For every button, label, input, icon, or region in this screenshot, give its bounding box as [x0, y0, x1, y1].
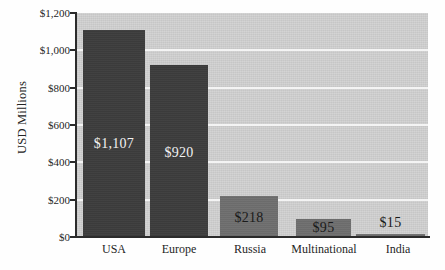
y-tick-label: $1,000: [6, 44, 70, 56]
x-axis-label-usa: USA: [83, 242, 145, 257]
plot-area: [77, 13, 428, 237]
x-axis-line: [75, 236, 430, 238]
y-tick-label: $800: [6, 82, 70, 94]
y-tick-label: $400: [6, 156, 70, 168]
y-axis-tick-labels: $1,200 $1,000 $800 $600 $400 $200 $0: [0, 0, 70, 270]
value-label-multinational: $95: [296, 220, 351, 236]
value-label-usa: $1,107: [83, 136, 145, 152]
y-axis-line: [75, 12, 77, 238]
bar-chart: USD Millions $1,200 $1,000 $800 $600 $40…: [0, 0, 445, 270]
y-tick-label: $1,200: [6, 7, 70, 19]
value-label-russia: $218: [220, 210, 278, 226]
value-label-india: $15: [356, 215, 425, 231]
x-axis-label-europe: Europe: [148, 242, 210, 257]
x-axis-label-russia: Russia: [219, 242, 281, 257]
y-tick-label: $200: [6, 194, 70, 206]
y-tick-label: $0: [6, 231, 70, 243]
y-tick-label: $600: [6, 119, 70, 131]
x-axis-label-india: India: [370, 242, 426, 257]
x-axis-label-multinational: Multinational: [284, 242, 364, 257]
bar-usa: [83, 30, 145, 237]
value-label-europe: $920: [150, 145, 208, 161]
